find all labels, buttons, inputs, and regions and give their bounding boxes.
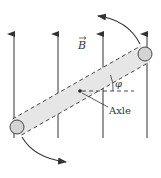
rotation-arrow-upper [98,16,140,44]
rotation-arrow-lower [22,137,66,162]
left-sphere [10,120,24,134]
rotating-dumbbell-diagram: B φ Axle [0,0,161,178]
field-label: B [77,37,86,53]
right-sphere [138,47,152,61]
axle-dot [78,89,82,93]
axle-leader-line [82,93,108,107]
axle-label: Axle [108,105,131,116]
rod-edge-bottom [22,62,150,135]
angle-label: φ [115,78,122,89]
field-label-text: B [77,39,86,52]
